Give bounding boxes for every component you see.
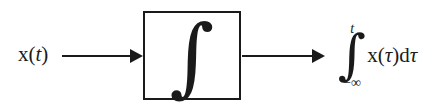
integral-sign-icon-output: ∫ [338,32,366,78]
integrand-expression: x(τ)dτ [367,43,417,67]
definite-integral-operator: t ∫ −∞ [338,22,366,90]
input-signal-label: x(t) [18,42,48,66]
differential-variable-tau: τ [410,43,418,67]
differential-d: d [399,43,410,67]
integrator-block: ∫ [143,11,241,100]
input-label-x: x [18,42,29,66]
input-arrow-head-icon [130,49,143,63]
integrator-block-diagram: x(t) ∫ t ∫ −∞ x(τ)dτ [0,0,436,106]
integral-sign-icon: ∫ [145,13,239,98]
integrand-x: x [367,43,378,67]
integrand-paren-open: ( [378,43,385,67]
input-arrow-line [62,55,130,57]
input-label-paren-close: ) [41,42,48,66]
input-label-paren-open: ( [29,42,36,66]
output-arrow-head-icon [312,49,325,63]
integral-lower-limit: −∞ [343,76,361,90]
output-arrow-line [242,55,312,57]
output-signal-expression: t ∫ −∞ x(τ)dτ [338,22,417,90]
